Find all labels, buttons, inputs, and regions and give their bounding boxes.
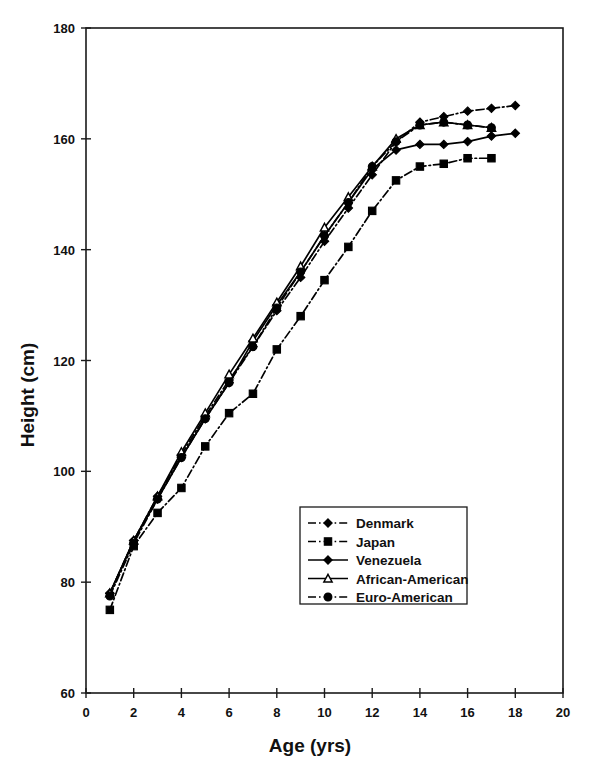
- data-point-diamond-marker: [511, 101, 519, 109]
- data-point-circle-marker: [249, 343, 257, 351]
- x-tick-label: 4: [178, 705, 186, 720]
- y-tick-label: 160: [53, 132, 75, 147]
- x-tick-label: 6: [225, 705, 232, 720]
- data-point-square-marker: [273, 346, 280, 353]
- data-point-square-marker: [297, 312, 304, 319]
- data-point-circle-marker: [225, 379, 233, 387]
- y-tick-label: 140: [53, 243, 75, 258]
- y-tick-label: 60: [61, 686, 75, 701]
- data-point-square-marker: [202, 443, 209, 450]
- data-point-circle-marker: [273, 304, 281, 312]
- data-point-square-marker: [392, 177, 399, 184]
- x-tick-label: 8: [273, 705, 280, 720]
- y-tick-label: 120: [53, 354, 75, 369]
- data-point-square-marker: [488, 155, 495, 162]
- x-axis-title: Age (yrs): [269, 735, 351, 756]
- data-point-circle-marker: [201, 415, 209, 423]
- x-tick-label: 12: [365, 705, 379, 720]
- data-point-diamond-marker: [511, 129, 519, 137]
- legend-item-label: Euro-American: [356, 590, 453, 605]
- data-point-diamond-marker: [463, 107, 471, 115]
- data-point-square-marker: [464, 155, 471, 162]
- data-point-diamond-marker: [416, 140, 424, 148]
- data-point-circle-marker: [106, 592, 114, 600]
- data-point-square-marker: [178, 484, 185, 491]
- y-tick-label: 180: [53, 21, 75, 36]
- chart-svg: 6080100120140160180 02468101214161820 He…: [0, 0, 592, 775]
- data-point-square-marker: [106, 606, 113, 613]
- data-point-circle-marker: [297, 268, 305, 276]
- data-point-square-marker: [416, 163, 423, 170]
- data-point-circle-marker: [392, 138, 400, 146]
- x-tick-label: 16: [460, 705, 474, 720]
- data-point-square-marker: [440, 160, 447, 167]
- data-point-circle-marker: [440, 118, 448, 126]
- legend-item-label: African-American: [356, 572, 469, 587]
- data-point-circle-marker: [464, 121, 472, 129]
- legend-circle-icon: [324, 593, 332, 601]
- growth-chart-figure: 6080100120140160180 02468101214161820 He…: [0, 0, 592, 775]
- data-point-circle-marker: [154, 495, 162, 503]
- data-point-circle-marker: [344, 199, 352, 207]
- y-axis-title: Height (cm): [17, 343, 38, 448]
- x-tick-label: 2: [130, 705, 137, 720]
- data-point-circle-marker: [416, 121, 424, 129]
- x-tick-label: 18: [508, 705, 522, 720]
- data-point-diamond-marker: [487, 132, 495, 140]
- data-point-square-marker: [321, 276, 328, 283]
- x-tick-label: 20: [556, 705, 570, 720]
- legend-square-icon: [324, 538, 331, 545]
- data-point-circle-marker: [130, 539, 138, 547]
- y-tick-label: 100: [53, 464, 75, 479]
- x-tick-label: 0: [82, 705, 89, 720]
- data-point-circle-marker: [321, 232, 329, 240]
- data-point-square-marker: [225, 409, 232, 416]
- data-point-square-marker: [249, 390, 256, 397]
- legend-item-label: Denmark: [356, 516, 414, 531]
- legend-item-label: Venezuela: [356, 553, 422, 568]
- legend-item-label: Japan: [356, 535, 395, 550]
- data-point-square-marker: [154, 509, 161, 516]
- data-point-diamond-marker: [463, 137, 471, 145]
- data-point-diamond-marker: [440, 140, 448, 148]
- chart-legend: DenmarkJapanVenezuelaAfrican-AmericanEur…: [300, 507, 469, 605]
- data-point-square-marker: [345, 243, 352, 250]
- data-point-circle-marker: [488, 124, 496, 132]
- data-point-square-marker: [369, 207, 376, 214]
- data-point-circle-marker: [178, 454, 186, 462]
- y-tick-label: 80: [61, 575, 75, 590]
- data-point-circle-marker: [368, 163, 376, 171]
- data-point-diamond-marker: [487, 104, 495, 112]
- x-tick-label: 14: [413, 705, 428, 720]
- x-tick-label: 10: [317, 705, 331, 720]
